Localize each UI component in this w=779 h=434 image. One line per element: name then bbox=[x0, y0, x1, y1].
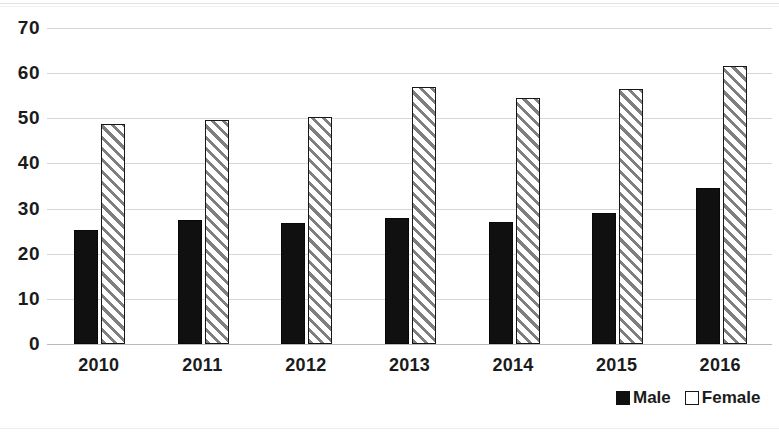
legend: MaleFemale bbox=[616, 389, 760, 406]
x-axis-labels: 2010201120122013201420152016 bbox=[47, 355, 772, 385]
legend-item-female[interactable]: Female bbox=[685, 389, 761, 406]
bar-male-2014 bbox=[489, 222, 513, 344]
bar-male-2010 bbox=[74, 230, 98, 344]
y-axis-tick-label: 40 bbox=[0, 152, 40, 174]
y-axis-tick-label: 0 bbox=[0, 333, 40, 355]
legend-swatch-male-icon bbox=[616, 391, 630, 405]
y-axis-tick-label: 50 bbox=[0, 107, 40, 129]
y-axis-labels: 010203040506070 bbox=[0, 0, 40, 434]
bar-female-2016 bbox=[723, 66, 747, 344]
x-axis-tick-label-2014: 2014 bbox=[463, 355, 563, 376]
bar-male-2015 bbox=[592, 213, 616, 344]
legend-swatch-female-icon bbox=[685, 391, 699, 405]
bar-female-2014 bbox=[516, 98, 540, 344]
x-axis-tick-label-2015: 2015 bbox=[567, 355, 667, 376]
bar-chart: 010203040506070 201020112012201320142015… bbox=[0, 0, 779, 434]
bar-male-2012 bbox=[281, 223, 305, 344]
x-axis-tick-label-2011: 2011 bbox=[152, 355, 252, 376]
y-axis-tick-label: 60 bbox=[0, 62, 40, 84]
legend-item-male[interactable]: Male bbox=[616, 389, 671, 406]
scan-artifact-line bbox=[0, 6, 779, 7]
bar-female-2012 bbox=[308, 117, 332, 344]
bar-male-2016 bbox=[696, 188, 720, 344]
x-axis-tick-label-2013: 2013 bbox=[360, 355, 460, 376]
axis-baseline bbox=[47, 344, 772, 345]
y-axis-tick-label: 70 bbox=[0, 17, 40, 39]
scan-artifact-line bbox=[0, 3, 779, 4]
legend-label-male: Male bbox=[633, 389, 671, 406]
y-axis-tick-label: 10 bbox=[0, 288, 40, 310]
bar-female-2010 bbox=[101, 124, 125, 344]
bar-female-2013 bbox=[412, 87, 436, 344]
x-axis-tick-label-2016: 2016 bbox=[670, 355, 770, 376]
bar-series-group bbox=[47, 28, 772, 344]
y-axis-tick-label: 20 bbox=[0, 243, 40, 265]
x-axis-tick-label-2012: 2012 bbox=[256, 355, 356, 376]
legend-label-female: Female bbox=[702, 389, 761, 406]
bar-female-2011 bbox=[205, 120, 229, 344]
plot-area bbox=[47, 28, 772, 344]
scan-artifact-line bbox=[0, 428, 779, 429]
bar-female-2015 bbox=[619, 89, 643, 344]
x-axis-tick-label-2010: 2010 bbox=[49, 355, 149, 376]
bar-male-2011 bbox=[178, 220, 202, 344]
bar-male-2013 bbox=[385, 218, 409, 344]
y-axis-tick-label: 30 bbox=[0, 198, 40, 220]
